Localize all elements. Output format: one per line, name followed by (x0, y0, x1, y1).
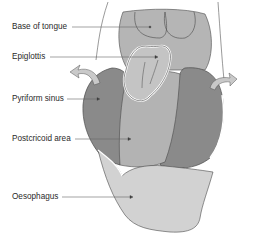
label-base-of-tongue: Base of tongue (12, 22, 67, 32)
curved-arrow-left-icon (70, 65, 100, 85)
label-oesophagus: Oesophagus (12, 192, 58, 202)
outer-contour-left (96, 2, 108, 60)
label-epiglottis: Epiglottis (12, 52, 45, 62)
label-postcricoid-area: Postcricoid area (12, 134, 71, 144)
outer-contour-right (218, 2, 224, 80)
label-pyriform-sinus: Pyriform sinus (12, 94, 64, 104)
hypopharynx-diagram (0, 0, 259, 247)
